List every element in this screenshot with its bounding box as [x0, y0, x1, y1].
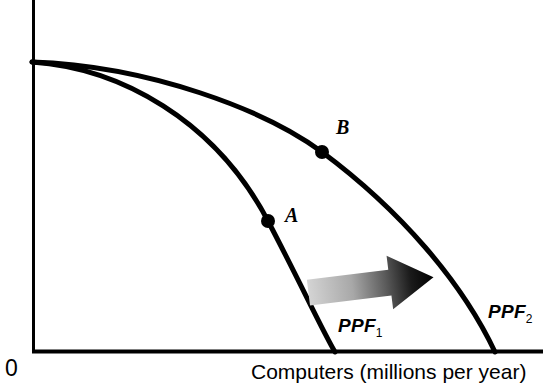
point-a-label: A — [285, 205, 298, 225]
origin-label: 0 — [5, 357, 18, 380]
ppf1-label: PPF1 — [338, 316, 383, 339]
x-axis-label: Computers (millions per year) — [251, 361, 526, 382]
point-b-label: B — [336, 117, 349, 137]
ppf-figure: A B PPF1 PPF2 0 Computers (millions per … — [0, 0, 543, 389]
ppf1-label-text: PPF — [338, 315, 376, 336]
point-b-marker — [315, 145, 329, 159]
ppf-diagram-canvas — [0, 0, 543, 389]
ppf2-label: PPF2 — [488, 302, 533, 325]
ppf2-label-text: PPF — [488, 301, 526, 322]
point-a-marker — [261, 214, 275, 228]
shift-arrow — [305, 250, 437, 319]
ppf1-label-subscript: 1 — [376, 326, 383, 340]
ppf2-curve — [32, 62, 495, 352]
ppf2-label-subscript: 2 — [526, 312, 533, 326]
